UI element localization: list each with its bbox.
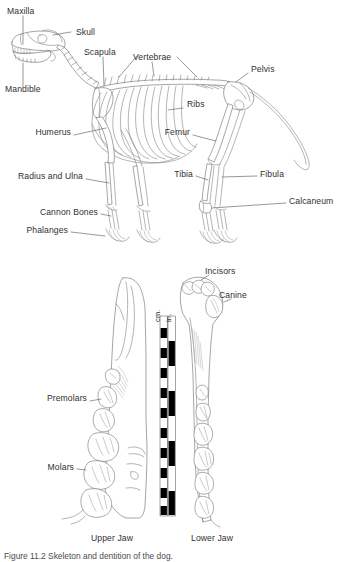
label-molars: Molars: [0, 463, 74, 472]
skull-group: [12, 30, 65, 53]
label-femur: Femur: [120, 128, 190, 137]
caption-upper-jaw: Upper Jaw: [91, 534, 133, 543]
leader-vertebrae-c: [177, 57, 197, 77]
leader-ribs: [168, 108, 183, 110]
label-canine: Canine: [219, 291, 247, 300]
label-fibula: Fibula: [260, 170, 284, 179]
figure-root: Maxilla Skull Scapula Vertebrae Pelvis M…: [0, 0, 351, 562]
mandible-group: [13, 50, 55, 62]
figure-caption: Figure 11.2 Skeleton and dentition of th…: [4, 551, 334, 562]
leader-humerus: [74, 128, 106, 135]
figure-caption-text: Figure 11.2 Skeleton and dentition of th…: [4, 551, 334, 562]
scale-bar: [160, 316, 176, 516]
leader-femur: [193, 135, 216, 141]
leader-cannon-bones: [101, 214, 111, 216]
skeleton-diagram: Maxilla Skull Scapula Vertebrae Pelvis M…: [0, 0, 351, 258]
spine-group: [96, 75, 233, 93]
leader-calcaneum: [212, 203, 286, 208]
lower-jaw-group: [180, 277, 222, 527]
leader-scapula: [103, 57, 104, 85]
label-tibia: Tibia: [140, 170, 193, 179]
forelimb-far-group: [121, 129, 160, 242]
jaw-artwork: [0, 258, 351, 562]
label-phalanges: Phalanges: [0, 226, 68, 235]
label-calcaneum: Calcaneum: [289, 197, 333, 206]
leader-pelvis: [236, 73, 248, 82]
label-ribs: Ribs: [187, 100, 205, 109]
label-premolars: Premolars: [0, 394, 87, 403]
label-scapula: Scapula: [84, 48, 116, 57]
label-skull: Skull: [76, 28, 95, 37]
label-cannon-bones: Cannon Bones: [0, 208, 98, 217]
label-humerus: Humerus: [0, 128, 71, 137]
label-radius-ulna: Radius and Ulna: [0, 172, 83, 181]
label-maxilla: Maxilla: [7, 7, 34, 16]
scapula-group: [92, 88, 113, 119]
jaw-dentition-diagram: cm. in. Incisors Canine Premolars Molars…: [0, 258, 351, 562]
hindlimb-near-group: [199, 104, 233, 243]
tail-group: [248, 88, 309, 170]
scale-unit-cm: cm.: [153, 309, 162, 322]
leader-phalanges: [71, 232, 105, 236]
leader-fibula: [222, 176, 257, 177]
label-incisors: Incisors: [205, 267, 235, 276]
caption-lower-jaw: Lower Jaw: [191, 534, 233, 543]
label-mandible: Mandible: [5, 85, 41, 94]
leader-vertebrae: [152, 62, 154, 76]
scale-unit-in: in.: [164, 314, 173, 322]
label-pelvis: Pelvis: [251, 65, 275, 74]
leader-radius-ulna: [86, 179, 109, 183]
hindlimb-far-group: [214, 110, 245, 242]
label-vertebrae: Vertebrae: [133, 53, 171, 62]
